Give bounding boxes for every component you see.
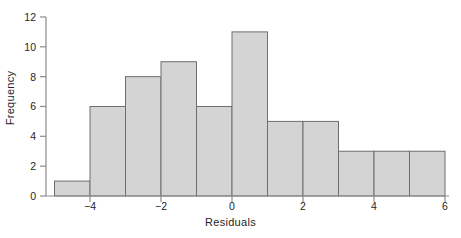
histogram-bar xyxy=(90,106,126,196)
histogram-bar xyxy=(374,151,410,196)
x-tick-label: −4 xyxy=(75,200,105,212)
histogram-figure: 024681012 −4−20246 Frequency Residuals xyxy=(0,0,461,238)
histogram-bar xyxy=(55,181,91,196)
histogram-bar xyxy=(268,121,304,196)
x-tick-label: 4 xyxy=(359,200,389,212)
histogram-bar xyxy=(197,106,233,196)
x-tick-label: 0 xyxy=(217,200,247,212)
histogram-bar xyxy=(232,32,268,196)
histogram-bar xyxy=(161,62,197,196)
x-axis-label: Residuals xyxy=(0,216,461,228)
histogram-bar xyxy=(339,151,375,196)
x-tick-label: −2 xyxy=(146,200,176,212)
y-axis-label: Frequency xyxy=(4,71,16,126)
bars-group xyxy=(55,32,446,196)
x-tick-label: 6 xyxy=(430,200,460,212)
x-tick-label: 2 xyxy=(288,200,318,212)
histogram-bar xyxy=(410,151,446,196)
histogram-bar xyxy=(126,77,162,196)
histogram-bar xyxy=(303,121,339,196)
y-axis-label-container: Frequency xyxy=(2,0,18,196)
